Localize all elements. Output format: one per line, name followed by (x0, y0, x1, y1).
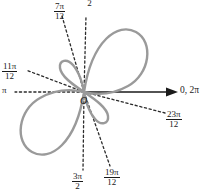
ray-label-19pi-12-numerator: 19π (104, 168, 120, 177)
ray-label-pi: π (2, 86, 7, 95)
polar-plot-figure: O 7π 12 π 2 11π 12 π 0, 2π 23π 12 (0, 0, 207, 195)
ray-label-19pi-12: 19π 12 (104, 168, 120, 187)
ray-label-23pi-12: 23π 12 (166, 110, 182, 129)
ray-line-19pi-12 (84, 92, 110, 166)
ray-label-pi-2-denominator: 2 (86, 0, 93, 8)
petal-large-lower-left (21, 90, 84, 154)
ray-label-7pi-12-numerator: 7π (54, 2, 65, 11)
ray-label-3pi-2: 3π 2 (72, 172, 83, 191)
ray-label-19pi-12-denominator: 12 (104, 177, 120, 187)
ray-label-pi-text: π (2, 86, 7, 95)
ray-line-11pi-12 (26, 70, 84, 92)
ray-label-3pi-2-denominator: 2 (72, 181, 83, 191)
ray-label-23pi-12-numerator: 23π (166, 110, 182, 119)
polar-plot-canvas (0, 0, 207, 195)
petal-small-upper-left (60, 61, 84, 92)
ray-line-23pi-12 (84, 92, 165, 113)
ray-label-3pi-2-numerator: 3π (72, 172, 83, 181)
origin-label: O (80, 95, 87, 106)
ray-label-11pi-12-numerator: 11π (2, 62, 17, 71)
ray-label-23pi-12-denominator: 12 (166, 119, 182, 129)
ray-label-7pi-12-denominator: 12 (54, 11, 65, 21)
ray-label-7pi-12: 7π 12 (54, 2, 65, 21)
ray-label-11pi-12: 11π 12 (2, 62, 17, 81)
ray-label-pi-2: π 2 (80, 0, 99, 2)
polar-axis-label: 0, 2π (180, 86, 199, 96)
petal-large-upper-right (84, 29, 147, 93)
ray-label-11pi-12-denominator: 12 (2, 71, 17, 81)
